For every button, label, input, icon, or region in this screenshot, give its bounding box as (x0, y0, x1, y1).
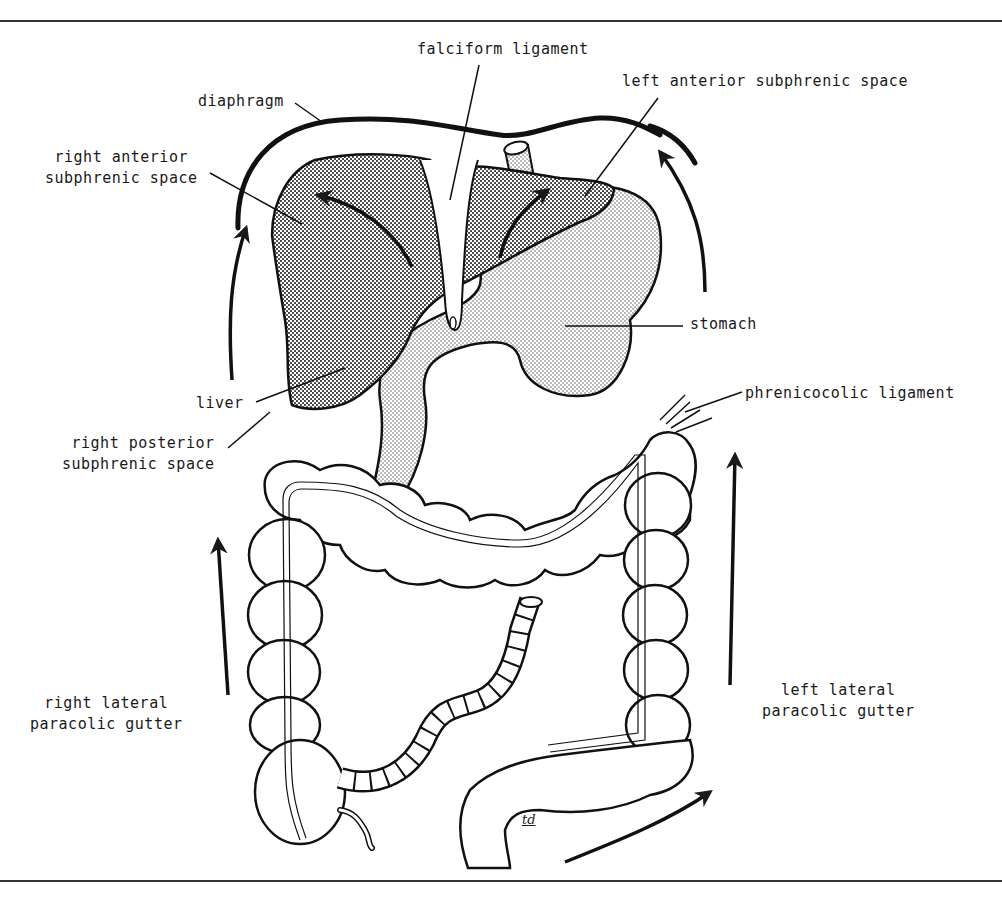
label-left-anterior-subphrenic-space: left anterior subphrenic space (622, 71, 908, 92)
cecum (255, 740, 345, 844)
descending-colon (623, 473, 691, 755)
label-phrenicocolic-ligament: phrenicocolic ligament (745, 383, 955, 404)
arrow-right-gutter (218, 540, 228, 695)
label-liver: liver (196, 393, 244, 414)
ascending-colon (248, 519, 325, 753)
sigmoid-colon (460, 740, 692, 868)
label-left-lateral-paracolic-gutter: left lateral paracolic gutter (762, 680, 915, 722)
label-stomach: stomach (690, 314, 757, 335)
appendix (340, 810, 372, 848)
artist-signature: td (522, 812, 536, 827)
label-right-lateral-paracolic-gutter: right lateral paracolic gutter (30, 693, 183, 735)
leader-diaphragm (295, 103, 322, 122)
label-right-posterior-subphrenic-space: right posterior subphrenic space (62, 433, 215, 475)
leader-right-posterior (228, 412, 270, 448)
leader-phrenicocolic (685, 392, 742, 412)
arrow-left-subphrenic-lateral (660, 152, 705, 292)
leader-left-anterior (585, 98, 658, 196)
label-right-anterior-subphrenic-space: right anterior subphrenic space (45, 147, 198, 189)
phrenicocolic-ligament (660, 395, 712, 432)
small-intestine (340, 597, 542, 782)
label-falciform-ligament: falciform ligament (417, 39, 589, 60)
arrow-left-gutter (730, 455, 735, 685)
arrow-right-subphrenic-lateral (230, 228, 246, 380)
label-diaphragm: diaphragm (198, 91, 284, 112)
